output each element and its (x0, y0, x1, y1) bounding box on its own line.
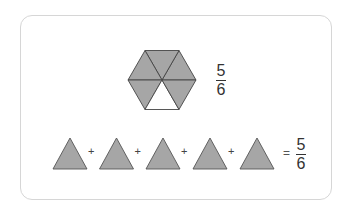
fraction-denominator: 6 (217, 82, 226, 98)
hexagon-shape (128, 51, 196, 110)
triangle-term-2 (100, 138, 134, 169)
fraction-numerator: 5 (297, 137, 306, 153)
equals-sign: = (283, 146, 290, 160)
plus-sign: + (88, 145, 94, 157)
result-fraction: 5 6 (296, 137, 306, 172)
hexagon-fraction: 5 6 (216, 63, 226, 98)
figure-graphics (0, 0, 351, 214)
plus-sign: + (135, 145, 141, 157)
triangle-term-4 (193, 138, 227, 169)
fraction-numerator: 5 (217, 63, 226, 79)
fraction-denominator: 6 (297, 156, 306, 172)
triangle-term-1 (53, 138, 87, 169)
triangle-term-3 (146, 138, 180, 169)
plus-sign: + (228, 145, 234, 157)
plus-sign: + (181, 145, 187, 157)
triangle-term-5 (240, 138, 274, 169)
